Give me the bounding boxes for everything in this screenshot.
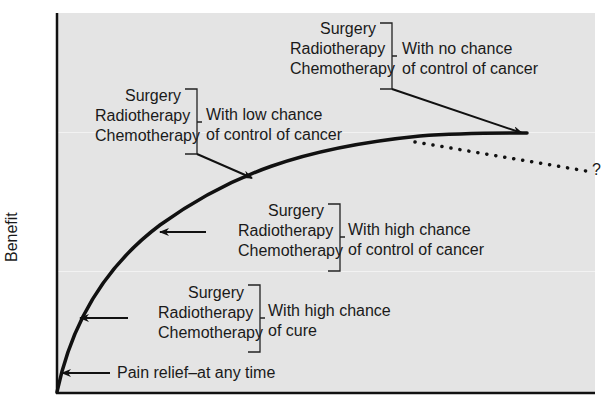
description-low-chance: With low chance of control of cancer	[206, 105, 342, 145]
treatment-chemotherapy: Chemotherapy	[158, 323, 244, 343]
treatment-chemotherapy: Chemotherapy	[95, 126, 181, 146]
treatment-list: Surgery Radiotherapy Chemotherapy	[238, 201, 324, 261]
dotted-decline-line	[415, 142, 592, 172]
description-line: With no chance	[402, 39, 538, 59]
arrow-low-chance	[197, 154, 252, 178]
treatment-chemotherapy: Chemotherapy	[290, 59, 376, 79]
treatment-radiotherapy: Radiotherapy	[95, 106, 181, 126]
y-axis-label: Benefit	[3, 212, 21, 262]
treatment-chemotherapy: Chemotherapy	[238, 241, 324, 261]
description-line: of control of cancer	[348, 240, 484, 260]
pain-relief-label: Pain relief–at any time	[117, 363, 275, 383]
description-line: of control of cancer	[402, 59, 538, 79]
treatment-radiotherapy: Radiotherapy	[158, 303, 244, 323]
question-mark: ?	[592, 160, 601, 180]
treatment-surgery: Surgery	[95, 86, 181, 106]
description-high-control: With high chance of control of cancer	[348, 220, 484, 260]
arrow-no-chance	[392, 89, 522, 133]
treatment-list: Surgery Radiotherapy Chemotherapy	[290, 19, 376, 79]
treatment-surgery: Surgery	[158, 283, 244, 303]
description-no-chance: With no chance of control of cancer	[402, 39, 538, 79]
treatment-surgery: Surgery	[238, 201, 324, 221]
description-high-cure: With high chance of cure	[268, 301, 391, 341]
treatment-radiotherapy: Radiotherapy	[290, 39, 376, 59]
description-line: With low chance	[206, 105, 342, 125]
description-line: With high chance	[268, 301, 391, 321]
description-line: of control of cancer	[206, 125, 342, 145]
description-line: of cure	[268, 321, 391, 341]
description-line: With high chance	[348, 220, 484, 240]
treatment-list: Surgery Radiotherapy Chemotherapy	[95, 86, 181, 146]
treatment-radiotherapy: Radiotherapy	[238, 221, 324, 241]
benefit-curve	[57, 133, 527, 392]
treatment-list: Surgery Radiotherapy Chemotherapy	[158, 283, 244, 343]
treatment-surgery: Surgery	[290, 19, 376, 39]
